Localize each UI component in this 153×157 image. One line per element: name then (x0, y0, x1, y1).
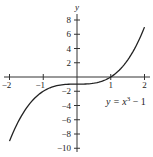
x-axis: −2−112 (2, 74, 150, 90)
x-tick-label: 2 (142, 80, 147, 90)
y-tick-label: −6 (61, 115, 71, 125)
y-tick-label: −2 (61, 86, 71, 96)
y-tick-label: −4 (61, 101, 71, 111)
x-tick-label: 1 (109, 80, 114, 90)
y-axis: y 8642−2−4−6−8−10 (57, 2, 80, 153)
y-tick-label: 4 (67, 44, 72, 54)
equation-tail: − 1 (130, 96, 146, 107)
y-axis-label: y (74, 2, 79, 12)
y-tick-label: −8 (61, 129, 71, 139)
y-tick-label: 6 (67, 29, 72, 39)
y-tick-label: 8 (67, 15, 72, 25)
y-tick-label: −10 (57, 143, 72, 153)
x-tick-label: −1 (35, 80, 45, 90)
equation-main: y = x (105, 96, 127, 107)
y-tick-label: 2 (67, 58, 72, 68)
equation-label: y = x3 − 1 (105, 95, 146, 107)
x-tick-label: −2 (2, 80, 12, 90)
cubic-function-chart: −2−112 y 8642−2−4−6−8−10 y = x3 − 1 (0, 0, 153, 157)
